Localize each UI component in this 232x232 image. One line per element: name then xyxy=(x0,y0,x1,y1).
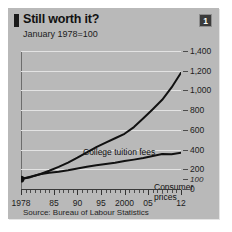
y-axis-label: 200 xyxy=(190,164,204,174)
y-axis-label: 1,400 xyxy=(190,46,211,56)
x-axis-tick xyxy=(45,190,46,193)
y-axis-label: 1,000 xyxy=(190,85,211,95)
x-axis-label: 85 xyxy=(49,198,58,208)
y-axis-label: 400 xyxy=(190,145,204,155)
x-axis-tick xyxy=(30,190,31,193)
y-axis-label: 600 xyxy=(190,125,204,135)
x-axis-tick xyxy=(167,190,168,193)
y-axis-label: 0 xyxy=(190,184,195,194)
x-axis-tick xyxy=(129,190,130,193)
x-axis-tick xyxy=(49,190,50,193)
y-axis-label: 800 xyxy=(190,105,204,115)
x-axis-tick xyxy=(172,190,173,193)
series-lines xyxy=(21,51,181,189)
chart-header: Still worth it? January 1978=100 1 xyxy=(8,8,219,48)
y-axis-label: 1,200 xyxy=(190,66,211,76)
y-axis-tick xyxy=(183,130,188,131)
x-axis-label: 2000 xyxy=(115,198,134,208)
title-accent-bar xyxy=(14,14,19,27)
chart-title: Still worth it? xyxy=(23,12,99,26)
x-axis-tick xyxy=(139,190,140,193)
chart-source: Source: Bureau of Labour Statistics xyxy=(23,208,149,217)
chart-subtitle: January 1978=100 xyxy=(23,29,98,39)
y-axis-tick xyxy=(183,189,188,190)
x-axis-tick xyxy=(73,190,74,193)
x-axis-label: 95 xyxy=(96,198,105,208)
y-axis-tick xyxy=(183,179,188,180)
y-axis-labels: 1,4001,2001,0008006004002001000 xyxy=(183,51,219,191)
x-axis-tick xyxy=(54,190,55,195)
x-axis-tick xyxy=(157,190,158,193)
x-axis-tick xyxy=(40,190,41,193)
x-axis-tick xyxy=(82,190,83,193)
x-axis-tick xyxy=(92,190,93,193)
x-axis-tick xyxy=(134,190,135,193)
y-axis-tick xyxy=(183,150,188,151)
x-axis-tick xyxy=(110,190,111,193)
y-axis-tick xyxy=(183,51,188,52)
y-axis-tick xyxy=(183,169,188,170)
x-axis-tick xyxy=(153,190,154,193)
chart-figure: Still worth it? January 1978=100 1 Colle… xyxy=(8,8,219,219)
x-axis-tick xyxy=(77,190,78,195)
x-axis-tick xyxy=(21,190,22,195)
x-axis-tick xyxy=(68,190,69,193)
x-axis-tick xyxy=(143,190,144,193)
x-axis-tick xyxy=(120,190,121,193)
y-axis-tick xyxy=(183,90,188,91)
y-axis-tick xyxy=(183,110,188,111)
x-axis-tick xyxy=(181,190,182,195)
x-axis-tick xyxy=(26,190,27,193)
x-axis-tick xyxy=(63,190,64,193)
x-axis-label: 05 xyxy=(143,198,152,208)
series-label-tuition: College tuition fees xyxy=(83,147,155,157)
x-axis-tick xyxy=(148,190,149,195)
x-axis xyxy=(21,189,181,196)
x-axis-tick xyxy=(96,190,97,193)
x-axis-label: 90 xyxy=(73,198,82,208)
x-axis-label: 12 xyxy=(176,198,185,208)
x-axis-label: 1978 xyxy=(12,198,31,208)
x-axis-tick xyxy=(101,190,102,195)
x-axis-tick xyxy=(125,190,126,195)
plot-area: College tuition fees Consumer prices xyxy=(21,51,181,189)
x-axis-tick xyxy=(35,190,36,193)
y-axis-label: 100 xyxy=(190,175,203,184)
x-axis-tick xyxy=(87,190,88,193)
x-axis-tick xyxy=(59,190,60,193)
x-axis-tick xyxy=(115,190,116,193)
x-axis-tick xyxy=(176,190,177,193)
origin-marker xyxy=(21,176,24,183)
x-axis-tick xyxy=(162,190,163,193)
series-line xyxy=(21,73,181,179)
x-axis-tick xyxy=(106,190,107,193)
chart-number-badge: 1 xyxy=(199,14,212,27)
y-axis-tick xyxy=(183,71,188,72)
